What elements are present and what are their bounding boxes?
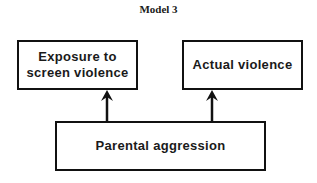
arrow-parental-to-actual [206, 90, 218, 121]
edges-layer [0, 0, 317, 183]
arrow-parental-to-exposure [101, 90, 113, 121]
